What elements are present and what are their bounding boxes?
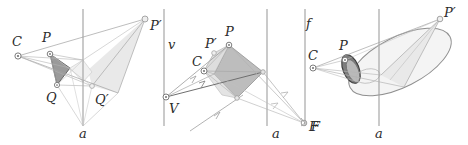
label-pprime-left: P′	[149, 18, 162, 33]
label-c-middle: C	[192, 54, 202, 69]
marker-vertex-right-middle	[261, 70, 266, 75]
label-q-left: Q	[46, 90, 57, 105]
label-c-right: C	[308, 48, 318, 63]
label-c-left: C	[12, 34, 22, 49]
label-f-point-right: F	[310, 119, 321, 134]
marker-vertex-bottom-middle	[235, 96, 240, 101]
marker-c-right	[310, 65, 316, 71]
geometry-figure: C P Q P′ Q′ a	[0, 0, 468, 145]
label-pprime-middle: P′	[204, 36, 217, 51]
marker-c-left	[15, 53, 21, 59]
marker-p-right	[342, 57, 348, 63]
label-p-middle: P	[224, 24, 234, 39]
figure-canvas: C P Q P′ Q′ a	[0, 0, 468, 145]
marker-p-left	[47, 51, 53, 57]
label-pprime-right: P′	[443, 5, 456, 20]
marker-pprime-left	[142, 16, 148, 22]
label-v-line-middle: v	[168, 37, 176, 52]
label-p-left: P	[41, 30, 51, 45]
marker-qprime-left	[90, 84, 95, 89]
label-p-right: P	[338, 38, 348, 53]
label-axis-a-left: a	[79, 126, 87, 141]
label-axis-a-right: a	[375, 126, 383, 141]
marker-p-middle	[226, 42, 232, 48]
marker-pprime-middle	[212, 51, 217, 56]
label-v-point-middle: V	[169, 101, 180, 116]
marker-v-middle	[163, 94, 169, 100]
label-axis-a-middle: a	[272, 126, 280, 141]
marker-q-left	[54, 82, 59, 87]
marker-pprime-right	[437, 16, 443, 22]
label-qprime-left: Q′	[95, 92, 109, 107]
